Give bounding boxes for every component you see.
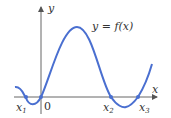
x-axis-label: x [152, 83, 159, 96]
function-graph: y x y = f(x) 0 x1 x2 x3 [0, 0, 171, 118]
root-label-x3: x3 [139, 101, 150, 115]
root-point-x1 [24, 95, 28, 99]
y-axis-label: y [47, 2, 55, 15]
root-point-x2 [109, 95, 113, 99]
root-point-origin [39, 95, 43, 99]
root-label-x1: x1 [16, 101, 27, 115]
curve-label: y = f(x) [91, 20, 133, 33]
root-label-x2: x2 [103, 101, 114, 115]
function-curve [15, 27, 152, 107]
graph-canvas: y x y = f(x) 0 x1 x2 x3 [0, 0, 171, 118]
root-point-x3 [136, 95, 140, 99]
origin-label: 0 [44, 100, 51, 113]
